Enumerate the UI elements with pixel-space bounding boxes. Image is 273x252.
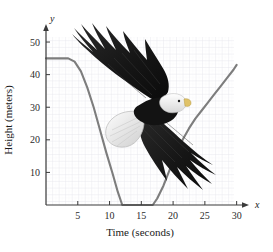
x-tick-label: 20: [168, 210, 178, 221]
x-tick-label: 5: [75, 210, 80, 221]
x-tick-label: 30: [232, 210, 242, 221]
x-axis-name: x: [254, 199, 260, 210]
y-axis-title: Height (meters): [2, 85, 15, 155]
eagle-eye: [178, 100, 180, 102]
x-tick-label: 15: [136, 210, 146, 221]
x-tick-label: 25: [200, 210, 210, 221]
x-axis-arrow: [242, 202, 249, 207]
y-tick-label: 10: [30, 167, 40, 178]
chart-svg: 51015202530 1020304050 y x Time (seconds…: [0, 0, 273, 252]
y-tick-label: 30: [30, 102, 40, 113]
y-axis-arrow: [43, 24, 49, 31]
y-tick-label: 40: [30, 69, 40, 80]
y-axis-name: y: [49, 13, 55, 24]
eagle-height-figure: 51015202530 1020304050 y x Time (seconds…: [0, 0, 273, 252]
x-tick-label: 10: [105, 210, 115, 221]
x-axis-title: Time (seconds): [106, 226, 174, 239]
y-tick-label: 50: [30, 37, 40, 48]
y-tick-label: 20: [30, 134, 40, 145]
eagle-head: [160, 94, 187, 113]
